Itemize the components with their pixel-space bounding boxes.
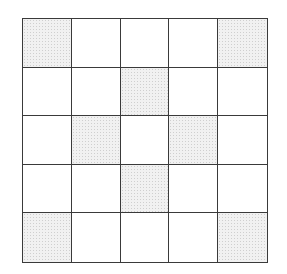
grid-cell-empty [218,68,267,117]
grid-cell-shaded [23,19,72,68]
grid-cell-empty [23,165,72,214]
grid-cell-shaded [121,165,170,214]
grid-cell-empty [121,213,170,262]
grid-cell-shaded [121,68,170,117]
grid-cell-empty [121,116,170,165]
grid-cell-empty [23,116,72,165]
grid-cell-shaded [169,116,218,165]
grid-cell-shaded [218,213,267,262]
grid-cell-empty [72,68,121,117]
grid-cell-shaded [23,213,72,262]
five-by-five-grid [22,18,268,263]
grid-cell-empty [169,165,218,214]
grid-cell-empty [23,68,72,117]
grid-cell-empty [218,165,267,214]
grid-cell-shaded [218,19,267,68]
grid-cell-shaded [72,116,121,165]
grid-cell-empty [169,213,218,262]
grid-cell-empty [72,19,121,68]
grid-cell-empty [169,19,218,68]
grid-cell-empty [72,165,121,214]
grid-cell-empty [121,19,170,68]
grid-cell-empty [72,213,121,262]
grid-cell-empty [169,68,218,117]
grid-cell-empty [218,116,267,165]
